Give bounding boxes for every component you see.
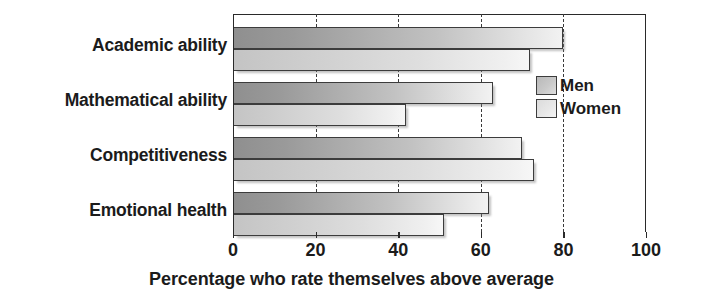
category-label-emotional-health: Emotional health <box>0 202 227 220</box>
plot-frame-right-border <box>645 14 646 232</box>
legend-label-men: Men <box>560 77 594 94</box>
bar-chart: Academic ability Mathematical ability Co… <box>0 0 703 306</box>
tick-mark-40 <box>398 232 399 238</box>
tick-label-60: 60 <box>471 241 491 259</box>
tick-label-80: 80 <box>553 241 573 259</box>
legend-item-women: Women <box>536 97 621 120</box>
legend-swatch-men-icon <box>536 76 557 95</box>
plot-frame-top-border <box>233 14 646 15</box>
bar-women-mathematical-ability <box>233 104 406 126</box>
category-label-competitiveness: Competitiveness <box>0 147 227 165</box>
y-axis-line <box>233 14 234 233</box>
gridline-80 <box>563 14 564 232</box>
legend-swatch-women-icon <box>536 99 557 118</box>
chart-legend: Men Women <box>536 74 621 120</box>
tick-mark-80 <box>563 232 564 238</box>
category-axis-labels: Academic ability Mathematical ability Co… <box>0 0 227 306</box>
bar-men-emotional-health <box>233 192 489 214</box>
tick-mark-0 <box>233 232 234 238</box>
bar-women-academic-ability <box>233 49 530 71</box>
tick-mark-100 <box>646 232 647 238</box>
tick-label-0: 0 <box>228 241 238 259</box>
tick-mark-20 <box>316 232 317 238</box>
plot-area <box>233 14 646 232</box>
tick-label-20: 20 <box>306 241 326 259</box>
category-label-mathematical-ability: Mathematical ability <box>0 92 227 110</box>
bar-men-competitiveness <box>233 137 522 159</box>
x-axis-title: Percentage who rate themselves above ave… <box>0 270 703 288</box>
category-label-academic-ability: Academic ability <box>0 37 227 55</box>
bar-men-mathematical-ability <box>233 82 493 104</box>
bar-men-academic-ability <box>233 27 563 49</box>
bar-women-emotional-health <box>233 214 444 236</box>
bar-women-competitiveness <box>233 159 534 181</box>
legend-item-men: Men <box>536 74 621 97</box>
tick-label-100: 100 <box>631 241 661 259</box>
legend-label-women: Women <box>560 100 621 117</box>
tick-mark-60 <box>481 232 482 238</box>
tick-label-40: 40 <box>388 241 408 259</box>
